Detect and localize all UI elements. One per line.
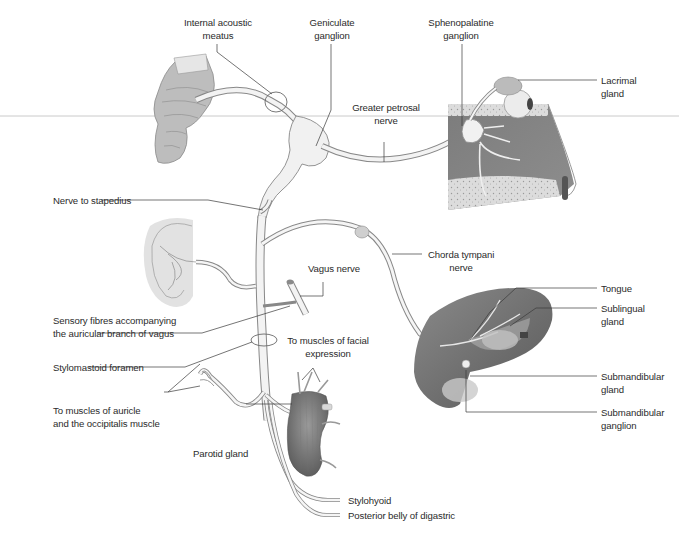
label-stylomastoid-foramen: Stylomastoid foramen — [53, 361, 144, 374]
label-lacrimal-gland: Lacrimal gland — [601, 74, 636, 100]
label-parotid-gland: Parotid gland — [193, 447, 248, 460]
brainstem-illustration — [154, 54, 214, 163]
label-tongue: Tongue — [601, 282, 632, 295]
label-sensory-fibres-auricular-vagus: Sensory fibres accompanying the auricula… — [53, 314, 176, 340]
lacrimal-gland-shape — [494, 77, 522, 95]
label-posterior-belly-digastric: Posterior belly of digastric — [348, 509, 455, 522]
label-sublingual-gland: Sublingual gland — [601, 302, 645, 328]
label-greater-petrosal-nerve: Greater petrosal nerve — [351, 101, 421, 127]
label-submandibular-ganglion: Submandibular ganglion — [601, 406, 664, 432]
label-submandibular-gland: Submandibular gland — [601, 370, 664, 396]
label-chorda-tympani-nerve: Chorda tympani nerve — [428, 248, 494, 274]
label-internal-acoustic-meatus: Internal acoustic meatus — [183, 16, 253, 42]
label-muscles-auricle-occipitalis: To muscles of auricle and the occipitali… — [53, 404, 160, 430]
label-vagus-nerve: Vagus nerve — [308, 262, 360, 275]
label-stylohyoid: Stylohyoid — [348, 494, 391, 507]
label-muscles-facial-expression: To muscles of facial expression — [285, 334, 371, 360]
label-sphenopalatine-ganglion: Sphenopalatine ganglion — [423, 16, 499, 42]
label-geniculate-ganglion: Geniculate ganglion — [306, 16, 358, 42]
tongue-illustration — [414, 288, 552, 408]
label-nerve-to-stapedius: Nerve to stapedius — [53, 194, 131, 207]
auricle-illustration — [144, 218, 196, 307]
